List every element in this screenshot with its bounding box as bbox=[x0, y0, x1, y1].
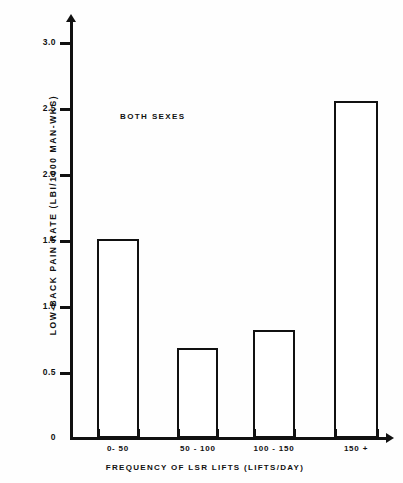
y-tick-1.5 bbox=[60, 240, 71, 243]
y-axis-line bbox=[70, 22, 73, 440]
bar-100-150 bbox=[253, 330, 295, 438]
x-tick-label-50-100: 50 - 100 bbox=[167, 444, 229, 453]
x-tick-mark-5 bbox=[253, 429, 256, 438]
x-tick-mark-2 bbox=[137, 429, 140, 438]
chart-annotation: BOTH SEXES bbox=[120, 112, 186, 121]
y-tick-label-0.5: 0.5 bbox=[0, 367, 56, 377]
y-tick-label-0: 0 bbox=[0, 432, 56, 442]
bar-150-plus bbox=[334, 101, 378, 438]
y-tick-2.5 bbox=[60, 108, 71, 111]
y-tick-1.0 bbox=[60, 306, 71, 309]
x-tick-mark-6 bbox=[293, 429, 296, 438]
y-axis-title: LOW-BACK PAIN RATE (LBI/1000 MAN-WKS) bbox=[48, 70, 58, 360]
chart-figure: LOW-BACK PAIN RATE (LBI/1000 MAN-WKS) 3.… bbox=[0, 0, 403, 483]
y-tick-label-3.0: 3.0 bbox=[0, 37, 56, 47]
bar-0-50 bbox=[97, 239, 139, 438]
bar-50-100 bbox=[177, 348, 218, 438]
x-tick-mark-4 bbox=[216, 429, 219, 438]
x-tick-label-0-50: 0- 50 bbox=[88, 444, 148, 453]
y-axis-arrow-icon bbox=[66, 14, 76, 22]
y-tick-2.0 bbox=[60, 174, 71, 177]
x-tick-mark-7 bbox=[334, 429, 337, 438]
x-tick-mark-8 bbox=[376, 429, 379, 438]
y-tick-0.5 bbox=[60, 372, 71, 375]
y-tick-3.0 bbox=[60, 42, 71, 45]
x-axis-arrow-icon bbox=[386, 433, 394, 443]
x-tick-mark-3 bbox=[177, 429, 180, 438]
y-tick-label-2.0: 2.0 bbox=[0, 169, 56, 179]
x-tick-mark-1 bbox=[97, 429, 100, 438]
x-axis-title: FREQUENCY OF LSR LIFTS (LIFTS/DAY) bbox=[40, 463, 370, 472]
x-tick-label-100-150: 100 - 150 bbox=[242, 444, 306, 453]
y-tick-label-2.5: 2.5 bbox=[0, 103, 56, 113]
y-tick-label-1.5: 1.5 bbox=[0, 235, 56, 245]
x-tick-label-150-plus: 150 + bbox=[326, 444, 386, 453]
y-tick-label-1.0: 1.0 bbox=[0, 301, 56, 311]
